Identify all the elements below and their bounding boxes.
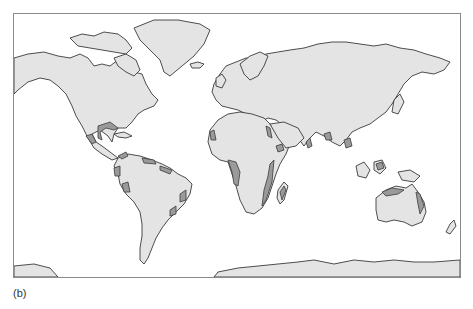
zone-horn-of-africa — [276, 144, 284, 152]
zone-southeast-asia — [344, 138, 352, 148]
indonesia-west — [356, 162, 370, 178]
arctic-islands — [70, 32, 132, 54]
new-guinea — [398, 170, 420, 182]
zone-mexico-pacific — [86, 134, 96, 144]
south-america — [114, 154, 192, 264]
antarctica — [14, 264, 58, 277]
panel-label: (b) — [13, 287, 26, 299]
new-zealand — [446, 220, 456, 234]
zone-indonesia — [376, 162, 384, 170]
zone-north-south-america — [142, 158, 156, 164]
zone-colombia-pacific — [114, 166, 120, 176]
world-map-svg — [14, 14, 460, 277]
world-map — [13, 13, 461, 278]
antarctica-east — [214, 260, 460, 277]
cuba — [114, 132, 132, 138]
iceland — [190, 62, 204, 68]
